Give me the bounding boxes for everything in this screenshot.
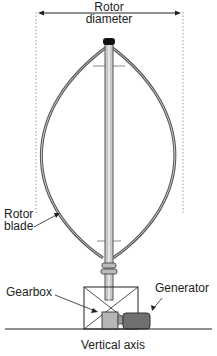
- rotor-blade-left: [41, 46, 108, 258]
- gearbox-label: Gearbox: [6, 286, 52, 298]
- rotor-blade-label: Rotor blade: [4, 208, 33, 232]
- generator-label: Generator: [155, 282, 209, 294]
- gearbox-arrowhead-icon: [91, 308, 98, 313]
- rotor-diameter-label-line2: diameter: [79, 13, 139, 25]
- arrowhead-right-icon: [175, 11, 181, 16]
- arrowhead-left-icon: [38, 11, 44, 16]
- bearing-collar: [102, 263, 116, 268]
- rotor-blade-label-line2: blade: [4, 220, 33, 232]
- rotor-blade-leader: [34, 214, 58, 227]
- rotor-diameter-label: Rotor diameter: [79, 1, 139, 25]
- rotor-blade-right: [110, 46, 175, 258]
- rotor-top-cap: [103, 38, 115, 45]
- gearbox: [102, 312, 118, 329]
- vertical-axis-label: Vertical axis: [68, 339, 158, 351]
- gearbox-leader: [55, 295, 95, 311]
- coupling: [118, 316, 123, 324]
- bearing-collar-lower: [101, 269, 117, 274]
- generator: [123, 313, 150, 329]
- turbine-drawing: [0, 0, 217, 356]
